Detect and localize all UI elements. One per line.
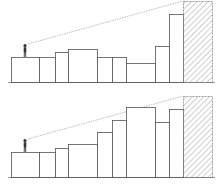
building — [127, 108, 156, 178]
building — [98, 58, 113, 83]
panel-bottom — [8, 96, 215, 178]
building — [127, 64, 156, 83]
target-building — [184, 97, 213, 178]
panel-top — [8, 1, 215, 83]
building — [40, 153, 56, 178]
building — [98, 133, 113, 178]
person-head — [23, 139, 26, 142]
building — [12, 58, 40, 83]
building — [170, 110, 184, 178]
building — [69, 50, 98, 83]
person-body — [24, 47, 27, 52]
building — [156, 47, 170, 83]
building — [156, 123, 170, 178]
person-head — [23, 44, 26, 47]
target-building — [184, 2, 213, 83]
line-of-sight-diagram — [0, 0, 222, 189]
building — [113, 58, 127, 83]
person-icon — [23, 139, 26, 152]
building — [56, 53, 69, 83]
building — [113, 121, 127, 178]
person-body — [24, 142, 27, 147]
building — [56, 149, 69, 178]
sight-line — [28, 1, 183, 44]
person-icon — [23, 44, 26, 57]
diagram-canvas — [0, 0, 222, 189]
building — [12, 153, 40, 178]
building — [69, 145, 98, 178]
building — [40, 58, 56, 83]
building — [170, 15, 184, 83]
